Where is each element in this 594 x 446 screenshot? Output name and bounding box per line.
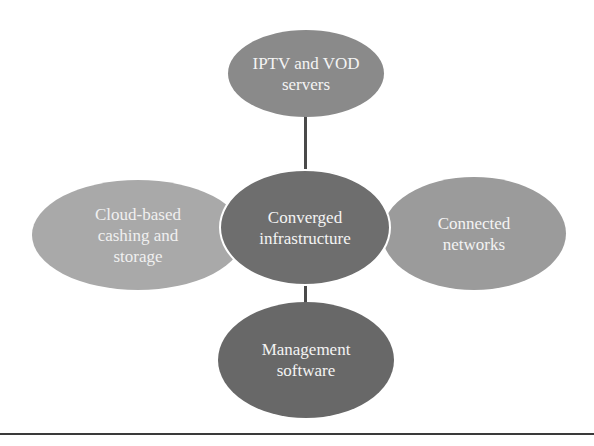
node-label-line: networks: [438, 234, 511, 255]
bottom-rule: [0, 433, 594, 435]
node-label-line: software: [262, 360, 351, 381]
connector-bottom: [304, 284, 307, 304]
node-label-line: Management: [262, 339, 351, 360]
connector-top: [304, 116, 307, 172]
node-label-line: servers: [252, 74, 359, 95]
node-label-line: Cloud-based: [95, 204, 181, 225]
node-label-line: cashing and: [95, 225, 181, 246]
node-label-line: storage: [95, 246, 181, 267]
node-converged-infrastructure: Converged infrastructure: [219, 169, 391, 286]
node-label-line: IPTV and VOD: [252, 53, 359, 74]
node-label-line: infrastructure: [259, 228, 351, 249]
node-label-line: Connected: [438, 213, 511, 234]
node-connected-networks: Connected networks: [382, 177, 566, 290]
node-cloud-caching-storage: Cloud-based cashing and storage: [32, 180, 244, 290]
node-label-line: Converged: [259, 207, 351, 228]
node-management-software: Management software: [218, 302, 394, 418]
node-iptv-vod-servers: IPTV and VOD servers: [228, 30, 384, 117]
